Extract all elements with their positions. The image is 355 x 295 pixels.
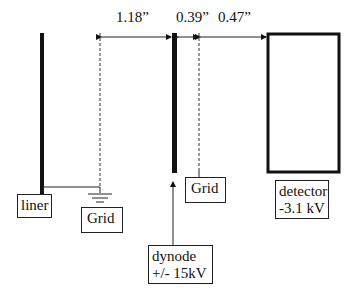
detector-electrode <box>268 34 339 172</box>
dynode-label-voltage: +/- 15kV <box>152 265 209 282</box>
dim-label-1: 1.18” <box>116 9 149 25</box>
dim-label-3: 0.47” <box>218 9 251 25</box>
liner-electrode <box>40 33 44 202</box>
grid-left-label: Grid <box>81 207 123 233</box>
ground-icon-left <box>88 194 112 202</box>
dynode-electrode <box>172 33 177 173</box>
dynode-label: dynode +/- 15kV <box>148 245 213 284</box>
detector-label-name: detector <box>279 183 325 200</box>
grid-right-label: Grid <box>185 177 226 203</box>
liner-label: liner <box>17 194 52 218</box>
dim-label-2: 0.39” <box>176 9 209 25</box>
detector-label: detector -3.1 kV <box>275 180 329 219</box>
detector-label-voltage: -3.1 kV <box>279 200 325 217</box>
dynode-label-name: dynode <box>152 248 209 265</box>
